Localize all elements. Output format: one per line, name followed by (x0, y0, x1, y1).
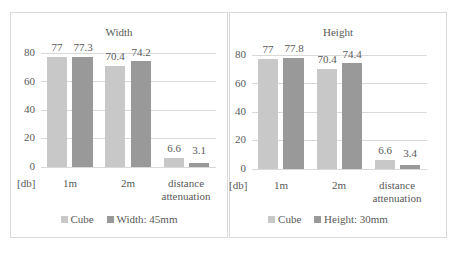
bar-width-distance (189, 163, 209, 167)
gridline (252, 112, 427, 113)
value-label: 74.2 (121, 46, 161, 58)
bar-cube-1m (258, 59, 278, 169)
x-label-distance: distance (367, 179, 427, 192)
legend: Cube Width: 45mm (11, 213, 227, 225)
chart-title: Width (11, 26, 227, 38)
y-tick-0: 0 (224, 162, 246, 174)
bar-cube-distance (164, 158, 184, 167)
y-tick-60: 60 (224, 77, 246, 89)
bar-cube-2m (105, 66, 125, 167)
legend-swatch (314, 216, 321, 223)
bar-width-2m (131, 61, 151, 167)
bar-height-1m (283, 58, 304, 169)
legend-swatch (107, 216, 114, 223)
y-tick-80: 80 (224, 48, 246, 60)
value-label: 3.4 (390, 147, 430, 159)
bar-width-1m (72, 57, 93, 167)
legend-swatch (61, 216, 68, 223)
chart-height-panel: Height 80 60 40 20 0 77 77.8 70.4 74.4 6… (229, 12, 447, 238)
x-label-1m: 1m (251, 179, 311, 192)
legend-item-cube: Cube (61, 213, 94, 225)
y-tick-60: 60 (13, 75, 35, 87)
x-label-2m: 2m (309, 179, 369, 192)
y-tick-0: 0 (13, 160, 35, 172)
value-label: 74.4 (332, 48, 372, 60)
y-tick-40: 40 (224, 105, 246, 117)
legend-swatch (268, 216, 275, 223)
chart-width-panel: Width 80 60 40 20 0 77 77.3 70.4 74.2 6.… (10, 12, 228, 238)
legend-item-width: Width: 45mm (107, 213, 178, 225)
gridline (252, 83, 427, 84)
x-label-attenuation: attenuation (367, 192, 427, 205)
y-tick-40: 40 (13, 103, 35, 115)
bar-cube-distance (375, 160, 395, 169)
unit-label: [db] (17, 177, 35, 189)
gridline (41, 110, 216, 111)
y-tick-20: 20 (224, 133, 246, 145)
x-label-1m: 1m (40, 177, 100, 190)
unit-label: [db] (229, 179, 247, 191)
bar-cube-2m (317, 69, 337, 169)
x-label-distance: distance (156, 177, 216, 190)
legend-item-cube: Cube (268, 213, 301, 225)
gridline (41, 81, 216, 82)
bar-height-distance (400, 165, 420, 169)
bar-height-2m (342, 63, 362, 169)
legend: Cube Height: 30mm (220, 213, 436, 225)
chart-title: Height (230, 26, 446, 38)
y-tick-80: 80 (13, 46, 35, 58)
x-label-attenuation: attenuation (156, 190, 216, 203)
x-axis (41, 167, 216, 168)
x-label-2m: 2m (98, 177, 158, 190)
x-axis (252, 169, 427, 170)
gridline (41, 138, 216, 139)
bar-cube-1m (47, 57, 67, 167)
gridline (252, 140, 427, 141)
y-tick-20: 20 (13, 131, 35, 143)
legend-item-height: Height: 30mm (314, 213, 388, 225)
value-label: 3.1 (179, 144, 219, 156)
